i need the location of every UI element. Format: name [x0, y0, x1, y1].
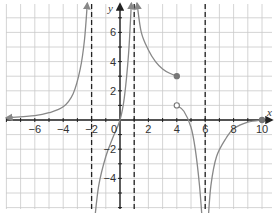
curve-branch-left	[6, 3, 87, 118]
origin-label: 0	[111, 123, 117, 135]
closed-point	[259, 117, 264, 122]
function-graph: x y 0 −6−4−2246810642−2−4	[0, 0, 278, 213]
curve-branch-right-lower	[177, 105, 203, 213]
y-axis-label: y	[107, 2, 113, 14]
x-tick-label: 10	[256, 123, 268, 135]
y-tick-label: 6	[110, 26, 116, 38]
x-tick-label: 8	[231, 123, 237, 135]
x-tick-label: −6	[29, 123, 42, 135]
open-point	[174, 103, 179, 108]
x-tick-label: −2	[85, 123, 98, 135]
y-tick-label: −2	[103, 143, 116, 155]
y-tick-label: −4	[103, 172, 116, 184]
labels: x y 0 −6−4−2246810642−2−4	[29, 2, 272, 184]
y-tick-label: 4	[110, 56, 116, 68]
grid	[6, 4, 272, 209]
x-tick-label: 2	[145, 123, 151, 135]
closed-point	[174, 74, 179, 79]
x-tick-label: 6	[202, 123, 208, 135]
curve-branch-right-upper	[137, 3, 177, 76]
y-tick-label: 2	[110, 85, 116, 97]
x-tick-label: −4	[57, 123, 70, 135]
x-tick-label: 4	[174, 123, 180, 135]
x-axis-label: x	[266, 106, 272, 118]
